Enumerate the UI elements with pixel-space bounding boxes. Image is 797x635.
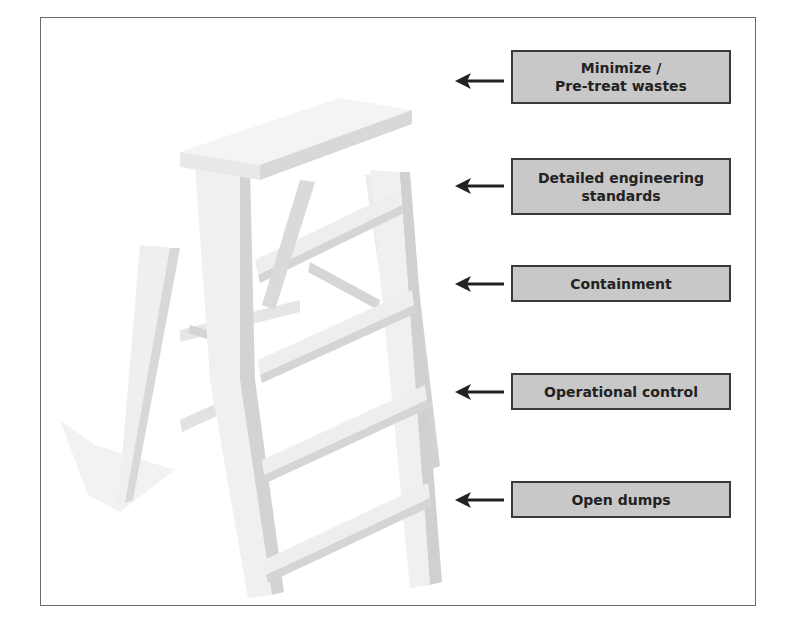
rung-label-line1: Operational control xyxy=(544,383,698,401)
arrow-left-icon xyxy=(455,276,505,292)
arrow-left-icon xyxy=(455,178,505,194)
rung-label-minimize: Minimize / Pre-treat wastes xyxy=(511,50,731,104)
rung-label-operational-control: Operational control xyxy=(511,373,731,410)
rung-label-containment: Containment xyxy=(511,265,731,302)
rung-label-line2: standards xyxy=(538,187,704,205)
rung-label-line2: Pre-treat wastes xyxy=(555,77,687,95)
rung-label-line1: Containment xyxy=(570,275,672,293)
rung-label-line1: Open dumps xyxy=(571,491,670,509)
arrow-left-icon xyxy=(455,384,505,400)
rung-label-open-dumps: Open dumps xyxy=(511,481,731,518)
arrow-left-icon xyxy=(455,73,505,89)
rung-label-line1: Detailed engineering xyxy=(538,169,704,187)
rung-label-line1: Minimize / xyxy=(555,59,687,77)
rung-label-engineering-standards: Detailed engineering standards xyxy=(511,158,731,215)
arrow-left-icon xyxy=(455,492,505,508)
